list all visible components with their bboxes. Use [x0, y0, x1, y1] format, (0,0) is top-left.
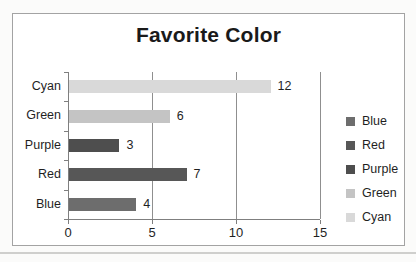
bar-value-label: 12	[278, 80, 292, 93]
x-axis-tick	[320, 220, 321, 224]
legend-label: Green	[362, 186, 397, 200]
y-axis-label: Green	[15, 101, 61, 130]
legend-label: Purple	[362, 162, 398, 176]
bar-purple	[69, 139, 119, 152]
x-axis-tick-label: 5	[137, 225, 167, 240]
y-axis-label: Blue	[15, 190, 61, 219]
legend-label: Blue	[362, 114, 387, 128]
page-artifact-line	[0, 252, 416, 254]
legend-item: Purple	[346, 157, 398, 181]
plot-area: 126374	[68, 72, 320, 219]
y-axis-tick	[64, 131, 68, 132]
legend-item: Blue	[346, 109, 398, 133]
y-axis-tick	[64, 101, 68, 102]
bar-value-label: 3	[126, 139, 133, 152]
x-axis-tick	[152, 220, 153, 224]
gridline	[152, 72, 153, 219]
gridline	[320, 72, 321, 219]
legend-swatch-icon	[346, 141, 355, 150]
chart-container: Favorite Color 126374 CyanGreenPurpleRed…	[12, 13, 405, 246]
bar-blue	[69, 198, 136, 211]
bar-cyan	[69, 80, 271, 93]
legend-swatch-icon	[346, 189, 355, 198]
bar-red	[69, 168, 187, 181]
legend-label: Cyan	[362, 210, 391, 224]
y-axis-label: Purple	[15, 131, 61, 160]
legend-swatch-icon	[346, 165, 355, 174]
chart-title: Favorite Color	[13, 23, 404, 47]
legend-swatch-icon	[346, 213, 355, 222]
y-axis-tick	[64, 160, 68, 161]
legend: BlueRedPurpleGreenCyan	[346, 109, 398, 229]
y-axis-tick	[64, 219, 68, 220]
y-axis-tick	[64, 72, 68, 73]
y-axis-tick	[64, 190, 68, 191]
bar-value-label: 4	[143, 198, 150, 211]
y-axis-label: Red	[15, 160, 61, 189]
x-axis-tick-label: 0	[53, 225, 83, 240]
x-axis-tick-label: 15	[305, 225, 335, 240]
legend-item: Cyan	[346, 205, 398, 229]
legend-swatch-icon	[346, 117, 355, 126]
gridline	[236, 72, 237, 219]
x-axis-line	[67, 219, 320, 220]
x-axis-tick	[236, 220, 237, 224]
legend-label: Red	[362, 138, 385, 152]
bar-value-label: 7	[194, 168, 201, 181]
bar-value-label: 6	[177, 110, 184, 123]
y-axis-label: Cyan	[15, 72, 61, 101]
bar-green	[69, 110, 170, 123]
x-axis-tick	[68, 220, 69, 224]
legend-item: Red	[346, 133, 398, 157]
x-axis-tick-label: 10	[221, 225, 251, 240]
legend-item: Green	[346, 181, 398, 205]
